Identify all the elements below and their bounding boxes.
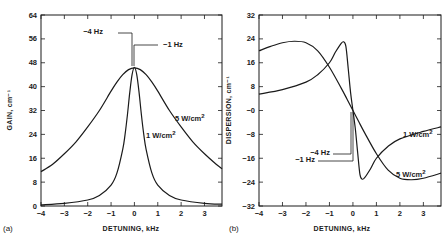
y-tick-label: −8 — [246, 130, 255, 139]
gain-y-axis-title: GAIN, cm⁻¹ — [6, 89, 14, 130]
y-tick-label: 16 — [247, 58, 255, 67]
x-tick-label: −2 — [83, 209, 92, 218]
y-tick-label: −0 — [246, 106, 255, 115]
annotation: −1 Hz — [295, 155, 315, 164]
y-tick-label: 32 — [29, 106, 37, 115]
y-tick-label: 40 — [29, 82, 37, 91]
x-tick-label: 2 — [179, 209, 183, 218]
x-tick-label: −4 — [255, 209, 264, 218]
y-tick-label: −24 — [242, 178, 256, 187]
x-tick-label: 1 — [374, 209, 378, 218]
annotation: −4 Hz — [83, 27, 103, 36]
annotation: 5 W/cm2 — [396, 169, 426, 179]
y-tick-label: 24 — [29, 130, 38, 139]
background — [0, 0, 448, 244]
dispersion-x-axis-title: DETUNING, kHz — [314, 225, 371, 233]
x-tick-label: −1 — [325, 209, 334, 218]
x-tick-label: 1 — [156, 209, 160, 218]
dispersion-panel-label: (b) — [229, 224, 239, 233]
x-tick-label: 0 — [351, 209, 355, 218]
figure: −4−3−2−101230816243240485664 −4 Hz−1 Hz5… — [0, 0, 448, 244]
y-tick-label: 16 — [29, 154, 37, 163]
y-tick-label: −32 — [242, 202, 255, 211]
x-tick-label: −2 — [302, 209, 311, 218]
annotation: 1 W/cm2 — [146, 130, 176, 140]
x-tick-label: −1 — [107, 209, 116, 218]
y-tick-label: 64 — [29, 11, 38, 20]
x-tick-label: −3 — [60, 209, 69, 218]
y-tick-label: 24 — [247, 34, 256, 43]
dispersion-y-axis-title: DISPERSION, cm⁻¹ — [225, 75, 233, 144]
y-tick-label: −16 — [242, 154, 255, 163]
x-tick-label: 0 — [132, 209, 136, 218]
annotation: 5 W/cm2 — [175, 113, 205, 123]
x-tick-label: 3 — [421, 209, 425, 218]
y-tick-label: 8 — [33, 178, 37, 187]
x-tick-label: 3 — [202, 209, 206, 218]
gain-x-axis-title: DETUNING, kHz — [103, 225, 160, 233]
x-tick-label: −4 — [37, 209, 46, 218]
y-tick-label: 48 — [29, 58, 37, 67]
annotation: −1 Hz — [163, 40, 183, 49]
annotation: 1 W/cm2 — [403, 129, 433, 139]
y-tick-label: 8 — [251, 82, 255, 91]
y-tick-label: 32 — [247, 11, 255, 20]
y-tick-label: 0 — [33, 202, 37, 211]
x-tick-label: 2 — [398, 209, 402, 218]
x-tick-label: −3 — [278, 209, 287, 218]
gain-panel-label: (a) — [3, 224, 13, 233]
y-tick-label: 56 — [29, 34, 37, 43]
